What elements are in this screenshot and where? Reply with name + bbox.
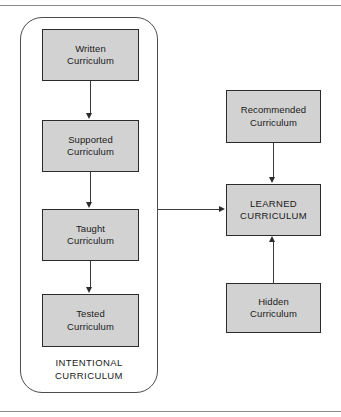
connector-written-to-supported [90, 81, 91, 114]
connector-recommended-to-learned [273, 143, 274, 178]
arrowhead-down-icon [86, 202, 92, 208]
node-tested-curriculum[interactable]: Tested Curriculum [42, 294, 139, 347]
intentional-curriculum-caption: INTENTIONAL CURRICULUM [24, 356, 154, 382]
node-written-curriculum[interactable]: Written Curriculum [42, 29, 139, 81]
node-written-curriculum-label: Written Curriculum [43, 43, 138, 68]
node-learned-curriculum[interactable]: LEARNED CURRICULUM [226, 184, 321, 236]
arrowhead-down-icon [86, 287, 92, 293]
node-learned-curriculum-label: LEARNED CURRICULUM [227, 198, 320, 223]
connector-taught-to-tested [90, 261, 91, 288]
node-supported-curriculum-label: Supported Curriculum [43, 134, 138, 159]
node-hidden-curriculum-label: Hidden Curriculum [227, 296, 320, 321]
node-supported-curriculum[interactable]: Supported Curriculum [42, 120, 139, 172]
connector-supported-to-taught [90, 172, 91, 203]
arrowhead-down-icon [86, 113, 92, 119]
arrowhead-down-icon [269, 177, 275, 183]
node-tested-curriculum-label: Tested Curriculum [43, 308, 138, 333]
frame-bottom-rule [0, 411, 341, 412]
arrowhead-right-icon [219, 206, 225, 212]
connector-hidden-to-learned [273, 242, 274, 283]
node-hidden-curriculum[interactable]: Hidden Curriculum [226, 283, 321, 333]
node-taught-curriculum[interactable]: Taught Curriculum [42, 209, 139, 261]
node-recommended-curriculum-label: Recommended Curriculum [227, 104, 320, 129]
node-taught-curriculum-label: Taught Curriculum [43, 223, 138, 248]
diagram-canvas: Written Curriculum Supported Curriculum … [0, 0, 341, 417]
node-recommended-curriculum[interactable]: Recommended Curriculum [226, 90, 321, 143]
connector-group-to-learned [158, 209, 220, 210]
arrowhead-up-icon [269, 236, 275, 242]
frame-top-rule [0, 5, 341, 6]
